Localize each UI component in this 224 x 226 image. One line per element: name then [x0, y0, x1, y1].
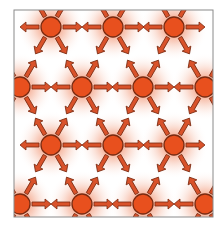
source-node [133, 77, 153, 97]
source-node [133, 194, 153, 214]
source-node [41, 17, 61, 37]
arrow-icon [0, 199, 8, 209]
source-node [103, 17, 123, 37]
lattice-diagram [0, 0, 224, 226]
arrow-icon [0, 82, 8, 92]
source-node [72, 194, 92, 214]
source-node [164, 135, 184, 155]
source-node [195, 77, 215, 97]
source-node [164, 17, 184, 37]
source-node [103, 135, 123, 155]
source-node [10, 194, 30, 214]
source-node [195, 194, 215, 214]
source-node [41, 135, 61, 155]
source-node [72, 77, 92, 97]
arrow-icon [217, 82, 224, 92]
source-node [10, 77, 30, 97]
arrow-icon [217, 199, 224, 209]
lattice-canvas [0, 0, 224, 226]
